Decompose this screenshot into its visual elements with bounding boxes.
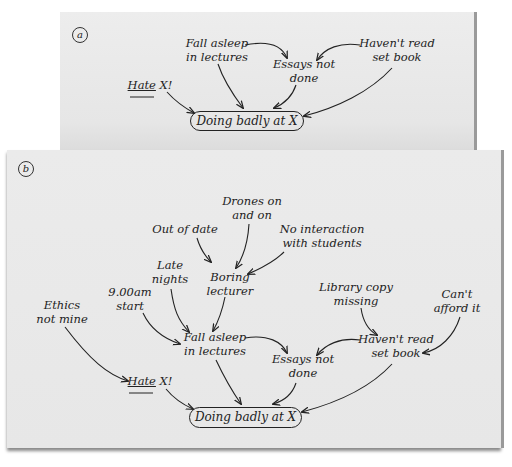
node-b-essays: Essays not done xyxy=(272,352,334,380)
node-b-out-of-date: Out of date xyxy=(152,222,218,236)
panel-label-b: b xyxy=(18,161,34,177)
node-b-outcome: Doing badly at X xyxy=(189,407,302,428)
node-b-boring: Boring lecturer xyxy=(207,270,254,298)
node-b-9am: 9.00am start xyxy=(108,285,151,313)
node-b-hate: Hate X! xyxy=(128,374,173,388)
node-b-late-nights: Late nights xyxy=(152,258,188,286)
edge-b-9am-to-fall-asleep xyxy=(143,313,180,344)
hate-word: Hate xyxy=(128,374,156,388)
edge-b-boring-to-fall-asleep xyxy=(213,297,225,331)
node-b-fall-asleep: Fall asleep in lectures xyxy=(184,330,246,358)
node-a-essays: Essays not done xyxy=(273,57,335,85)
node-a-fall-asleep: Fall asleep in lectures xyxy=(186,36,248,64)
edge-b-library-to-havent-read xyxy=(361,308,377,335)
node-b-drones: Drones on and on xyxy=(222,194,282,222)
panel-label-a: a xyxy=(72,27,88,43)
node-a-havent-read: Haven't read set book xyxy=(359,36,435,64)
node-b-havent-read: Haven't read set book xyxy=(358,332,434,360)
edge-a-fall-asleep-to-essays xyxy=(245,43,287,58)
node-b-no-interaction: No interaction with students xyxy=(280,222,365,250)
edge-b-no-interaction-to-boring xyxy=(248,252,284,274)
node-a-hate: Hate X! xyxy=(128,78,173,92)
hate-rest: X! xyxy=(156,78,172,92)
edge-b-out-of-date-to-boring xyxy=(197,238,211,262)
edge-b-fall-asleep-to-outcome xyxy=(216,360,241,404)
edge-b-essays-to-outcome xyxy=(273,383,296,404)
hate-word: Hate xyxy=(128,78,156,92)
edge-b-ethics-to-hate xyxy=(65,327,128,381)
node-b-library: Library copy missing xyxy=(319,280,393,308)
edge-b-fall-asleep-to-essays xyxy=(245,337,287,353)
edge-b-hate-to-outcome xyxy=(166,389,193,409)
edge-a-fall-asleep-to-outcome xyxy=(218,64,243,108)
edge-b-late-nights-to-fall-asleep xyxy=(171,289,189,332)
node-a-outcome: Doing badly at X xyxy=(190,111,304,131)
hate-rest: X! xyxy=(156,374,172,388)
edge-a-essays-to-outcome xyxy=(274,85,296,108)
edge-a-hate-to-outcome xyxy=(167,92,194,113)
node-b-cant-afford: Can't afford it xyxy=(434,287,481,315)
node-b-ethics: Ethics not mine xyxy=(36,298,87,326)
arrows-layer xyxy=(0,0,512,467)
edge-b-drones-to-boring xyxy=(236,224,249,268)
